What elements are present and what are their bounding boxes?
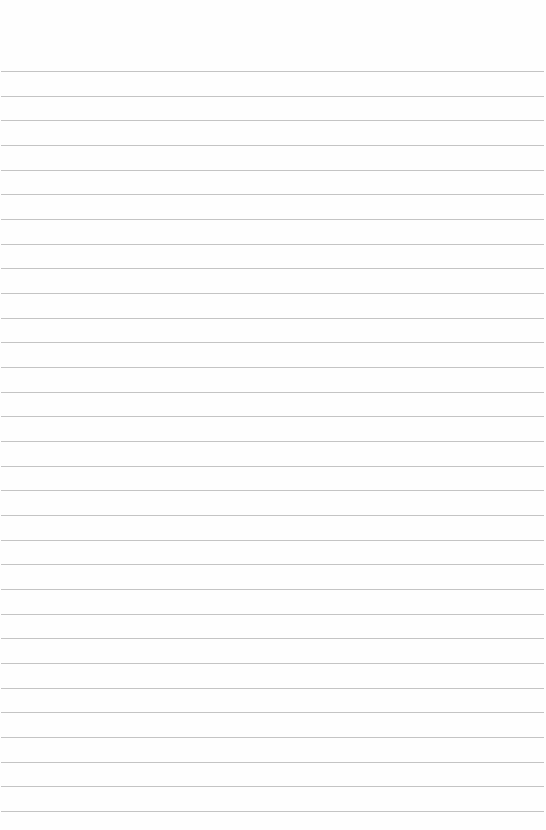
ruled-line <box>1 663 544 664</box>
ruled-line <box>1 293 544 294</box>
ruled-line <box>1 342 544 343</box>
ruled-line <box>1 318 544 319</box>
ruled-line <box>1 762 544 763</box>
ruled-line <box>1 688 544 689</box>
lined-page <box>0 0 546 830</box>
ruled-line <box>1 194 544 195</box>
ruled-line <box>1 170 544 171</box>
ruled-line <box>1 120 544 121</box>
ruled-line <box>1 564 544 565</box>
ruled-line <box>1 96 544 97</box>
ruled-line <box>1 786 544 787</box>
ruled-line <box>1 490 544 491</box>
ruled-line <box>1 712 544 713</box>
ruled-line <box>1 145 544 146</box>
ruled-line <box>1 71 544 72</box>
ruled-line <box>1 811 544 812</box>
ruled-line <box>1 614 544 615</box>
ruled-line <box>1 737 544 738</box>
ruled-line <box>1 416 544 417</box>
ruled-line <box>1 392 544 393</box>
ruled-line <box>1 441 544 442</box>
ruled-line <box>1 219 544 220</box>
ruled-line <box>1 638 544 639</box>
ruled-line <box>1 540 544 541</box>
ruled-line <box>1 466 544 467</box>
ruled-line <box>1 268 544 269</box>
ruled-line <box>1 244 544 245</box>
ruled-line <box>1 515 544 516</box>
ruled-line <box>1 367 544 368</box>
ruled-line <box>1 589 544 590</box>
